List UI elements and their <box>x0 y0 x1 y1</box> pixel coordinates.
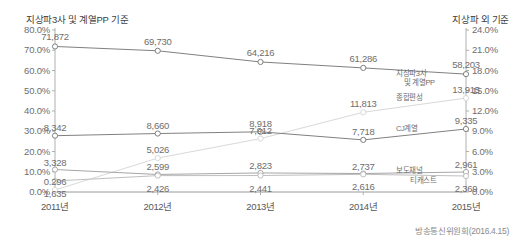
data-point-marker <box>361 110 366 115</box>
right-tick-label: 21.0% <box>472 44 498 55</box>
data-point-marker <box>52 167 57 172</box>
data-point-label: 8,918 <box>237 118 285 129</box>
data-point-label: 7,718 <box>339 126 387 137</box>
data-point-label: 9,335 <box>442 115 490 126</box>
right-tick-label: 6.0% <box>472 146 493 157</box>
data-point-label: 71,872 <box>31 31 79 42</box>
data-point-marker <box>361 137 366 142</box>
data-point-label: 2,616 <box>339 181 387 192</box>
left-tick-label: 70.0% <box>2 44 50 55</box>
right-tick-label: 9.0% <box>472 125 493 136</box>
data-point-marker <box>258 136 263 141</box>
data-point-label: 2,369 <box>442 183 490 194</box>
left-tick-label: 50.0% <box>2 85 50 96</box>
data-point-label: 2,737 <box>339 161 387 172</box>
left-tick-label: 20.0% <box>2 146 50 157</box>
series-label-티캐스트: 티캐스트 <box>410 177 436 186</box>
data-point-marker <box>155 173 160 178</box>
data-point-label: 2,961 <box>442 159 490 170</box>
series-label-지상파3사 및 계열PP: 지상파3사및 계열PP <box>396 70 435 87</box>
series-label-종합편성: 종합편성 <box>396 94 422 103</box>
data-point-label: 8,342 <box>31 122 79 133</box>
data-point-label: 2,823 <box>237 160 285 171</box>
series-label-CJ계열: CJ계열 <box>396 125 418 134</box>
source-note: 방송통신위원회(2016.4.15) <box>415 224 509 236</box>
data-point-marker <box>463 95 468 100</box>
data-point-label: 13,915 <box>442 84 490 95</box>
data-point-marker <box>463 126 468 131</box>
data-point-marker <box>361 65 366 70</box>
x-axis-label: 2013년 <box>221 199 301 213</box>
x-axis-label: 2015년 <box>426 199 506 213</box>
data-point-label: 2,441 <box>237 183 285 194</box>
data-point-label: 0.296 <box>31 176 79 187</box>
data-point-label: 3,328 <box>31 157 79 168</box>
data-point-marker <box>155 131 160 136</box>
data-point-marker <box>155 155 160 160</box>
x-axis-label: 2014년 <box>323 199 403 213</box>
data-point-marker <box>258 173 263 178</box>
data-point-label: 11,813 <box>339 98 387 109</box>
data-point-marker <box>52 44 57 49</box>
data-point-label: 2,426 <box>134 183 182 194</box>
data-point-marker <box>52 133 57 138</box>
data-point-label: 1,635 <box>31 188 79 199</box>
data-point-marker <box>463 173 468 178</box>
data-point-label: 2,599 <box>134 161 182 172</box>
data-point-label: 64,216 <box>237 47 285 58</box>
right-tick-label: 24.0% <box>472 24 498 35</box>
data-point-label: 5,026 <box>134 144 182 155</box>
chart-container: 지상파3사 및 계열PP 기준 지상파 외 기준 0.0%10.0%20.0%3… <box>0 0 517 244</box>
x-axis-label: 2012년 <box>118 199 198 213</box>
data-point-marker <box>258 59 263 64</box>
data-point-label: 61,286 <box>339 53 387 64</box>
data-point-label: 69,730 <box>134 36 182 47</box>
data-point-label: 58,203 <box>442 59 490 70</box>
left-tick-label: 60.0% <box>2 65 50 76</box>
data-point-marker <box>463 72 468 77</box>
data-point-marker <box>361 172 366 177</box>
data-point-label: 8,660 <box>134 120 182 131</box>
left-tick-label: 40.0% <box>2 105 50 116</box>
series-label-보도채널: 보도채널 <box>396 167 422 176</box>
x-axis-label: 2011년 <box>15 199 95 213</box>
data-point-marker <box>155 48 160 53</box>
